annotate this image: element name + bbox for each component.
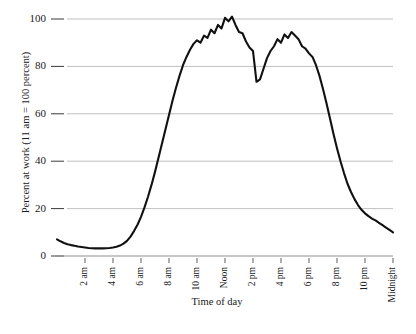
chart-canvas: 020406080100 2 am4 am6 am8 am10 amNoon2 … bbox=[0, 0, 416, 334]
x-tick-label: 4 am bbox=[107, 266, 117, 285]
ytick-label-group: 020406080100 bbox=[30, 12, 47, 261]
y-tick-label: 80 bbox=[35, 59, 47, 71]
y-axis-label: Percent at work (11 am = 100 percent) bbox=[20, 51, 32, 213]
ytick-dash-group bbox=[51, 19, 64, 256]
y-tick-label: 60 bbox=[35, 107, 47, 119]
x-tick-label: 2 am bbox=[79, 266, 89, 285]
y-tick-label: 0 bbox=[41, 249, 47, 261]
x-tick-label: 6 pm bbox=[303, 266, 313, 286]
x-tick-label: Noon bbox=[219, 267, 229, 288]
x-tick-label: 8 pm bbox=[331, 266, 341, 286]
x-tick-label: 6 am bbox=[135, 266, 145, 285]
x-axis-label: Time of day bbox=[192, 296, 244, 307]
x-tick-label: Midnight bbox=[387, 267, 397, 303]
y-tick-label: 40 bbox=[35, 154, 47, 166]
x-tick-label: 10 am bbox=[191, 266, 201, 290]
x-tick-label: 2 pm bbox=[247, 266, 257, 286]
x-tick-label: 10 pm bbox=[359, 266, 369, 291]
gridlines-group bbox=[67, 19, 393, 209]
x-tick-label: 4 pm bbox=[275, 266, 285, 286]
x-tick-label: 8 am bbox=[163, 266, 173, 285]
y-tick-label: 100 bbox=[30, 12, 47, 24]
xtick-mark-group bbox=[85, 258, 393, 263]
y-tick-label: 20 bbox=[35, 202, 47, 214]
work-schedule-chart: 020406080100 2 am4 am6 am8 am10 amNoon2 … bbox=[0, 0, 416, 334]
series-line bbox=[57, 17, 393, 249]
data-series-group bbox=[57, 17, 393, 249]
